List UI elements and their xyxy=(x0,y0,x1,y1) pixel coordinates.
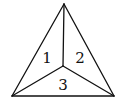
triangle-diagram: 1 2 3 xyxy=(0,0,119,102)
region-label-1: 1 xyxy=(42,49,52,67)
region-label-2: 2 xyxy=(75,49,85,67)
edge-left xyxy=(12,4,64,96)
edge-apex-center xyxy=(63,4,64,66)
edge-right xyxy=(64,4,114,96)
edge-bottom-left-center xyxy=(12,66,63,96)
region-label-3: 3 xyxy=(58,76,68,94)
